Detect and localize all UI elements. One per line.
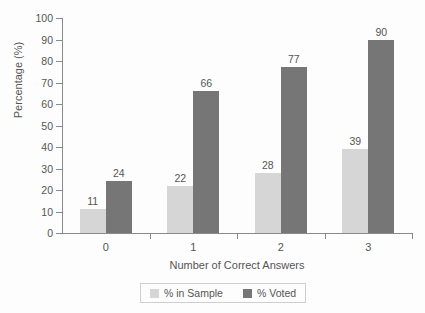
bar	[281, 67, 307, 233]
y-tick	[56, 212, 62, 213]
bar	[80, 209, 106, 233]
bar	[342, 149, 368, 233]
x-axis-title: Number of Correct Answers	[62, 259, 412, 271]
x-tick-label: 1	[173, 241, 213, 253]
x-tick	[412, 233, 413, 239]
bar-value-label: 90	[361, 26, 401, 38]
legend-swatch	[150, 289, 159, 298]
y-tick-label: 50	[13, 121, 53, 131]
legend-swatch	[243, 289, 252, 298]
x-tick-label: 2	[261, 241, 301, 253]
y-axis-line	[62, 18, 63, 234]
y-tick	[56, 104, 62, 105]
y-tick-label: 10	[13, 207, 53, 217]
y-tick-label: 30	[13, 164, 53, 174]
chart-figure: Percentage (%) Number of Correct Answers…	[0, 0, 425, 313]
bar	[368, 40, 394, 234]
bar	[167, 186, 193, 233]
legend-label: % Voted	[257, 287, 296, 299]
y-tick	[56, 83, 62, 84]
bar-value-label: 66	[186, 77, 226, 89]
bar	[255, 173, 281, 233]
y-tick	[56, 40, 62, 41]
legend-label: % in Sample	[164, 287, 223, 299]
chart-legend: % in Sample% Voted	[140, 283, 306, 303]
bar-value-label: 77	[274, 53, 314, 65]
bar-value-label: 24	[99, 167, 139, 179]
y-tick-label: 70	[13, 78, 53, 88]
bar	[106, 181, 132, 233]
y-tick	[56, 18, 62, 19]
y-tick	[56, 169, 62, 170]
y-tick-label: 0	[13, 228, 53, 238]
bar	[193, 91, 219, 233]
y-tick-label: 40	[13, 142, 53, 152]
y-tick	[56, 147, 62, 148]
y-tick	[56, 190, 62, 191]
legend-item[interactable]: % in Sample	[150, 287, 223, 299]
y-tick	[56, 126, 62, 127]
legend-item[interactable]: % Voted	[243, 287, 296, 299]
x-tick-label: 3	[348, 241, 388, 253]
y-tick-label: 60	[13, 99, 53, 109]
y-tick-label: 90	[13, 35, 53, 45]
y-tick	[56, 61, 62, 62]
y-tick-label: 20	[13, 185, 53, 195]
y-tick	[56, 233, 62, 234]
x-tick	[325, 233, 326, 239]
x-tick	[237, 233, 238, 239]
y-tick-label: 80	[13, 56, 53, 66]
x-tick	[150, 233, 151, 239]
x-tick-label: 0	[86, 241, 126, 253]
y-tick-label: 100	[13, 13, 53, 23]
